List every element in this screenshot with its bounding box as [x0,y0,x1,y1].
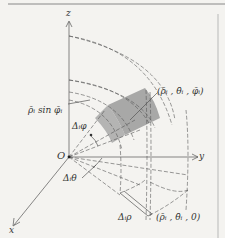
ray-ground-1 [69,157,140,185]
rho-sin-phi-label: ρ̄ᵢ sin φ̄ᵢ [28,106,62,115]
origin-point [68,156,71,159]
delta-theta-label: Δᵢθ [63,174,77,183]
z-axis-label: z [66,9,71,18]
y-axis-label: y [199,152,204,161]
x-axis [14,157,69,225]
delta-phi-marker [90,134,93,137]
spherical-element-diagram [0,0,225,238]
x-axis-label: x [9,226,14,235]
delta-rho-label: Δᵢρ [118,213,132,222]
projection-label: (ρ̄ᵢ , θ̄ᵢ , 0) [156,213,200,222]
delta-phi-label: Δᵢφ [72,122,87,131]
point-label: (ρ̄ᵢ , θ̄ᵢ , φ̄ᵢ) [157,87,204,96]
diagram-frame: z y x O ρ̄ᵢ sin φ̄ᵢ Δᵢφ Δᵢθ Δᵢρ (ρ̄ᵢ , θ… [0,0,225,238]
origin-label: O [57,151,65,161]
